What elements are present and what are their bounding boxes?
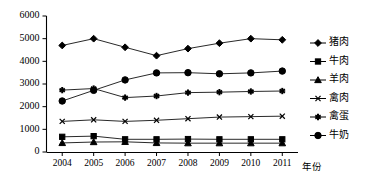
x-tick-label: 2011 xyxy=(273,158,292,168)
data-point-circle xyxy=(153,70,159,76)
data-point-circle xyxy=(216,71,222,77)
data-point-asterisk xyxy=(248,88,253,94)
data-point-diamond xyxy=(216,40,223,47)
data-point-circle xyxy=(59,98,65,104)
legend-item-label: 禽肉 xyxy=(329,91,349,103)
data-point-diamond xyxy=(185,45,192,52)
legend-item-4[interactable]: 禽蛋 xyxy=(310,109,349,121)
x-tick-label: 2004 xyxy=(53,158,72,168)
data-point-asterisk xyxy=(185,89,190,95)
y-tick-label: 1000 xyxy=(20,123,40,134)
x-axis-group: 20042005200620072008200920102011 年份 xyxy=(47,152,323,172)
legend-item-label: 牛肉 xyxy=(329,54,349,66)
y-tick-marks xyxy=(43,16,47,152)
data-point-diamond xyxy=(122,44,129,51)
legend-item-5[interactable]: 牛奶 xyxy=(310,128,349,140)
y-tick-labels: 0100020003000400050006000 xyxy=(20,9,40,156)
legend-item-1[interactable]: 牛肉 xyxy=(310,54,349,66)
legend-item-label: 牛奶 xyxy=(329,128,349,140)
y-tick-label: 0 xyxy=(35,145,40,156)
data-point-asterisk xyxy=(280,88,285,94)
x-tick-label: 2008 xyxy=(178,158,197,168)
y-axis-group: 0100020003000400050006000 xyxy=(20,9,47,156)
data-point-asterisk xyxy=(315,114,320,120)
data-point-circle xyxy=(315,132,321,138)
x-axis-title: 年份 xyxy=(302,161,322,172)
x-tick-labels: 20042005200620072008200920102011 xyxy=(53,158,292,168)
data-point-diamond xyxy=(247,35,254,42)
data-point-diamond xyxy=(59,42,66,49)
legend-item-label: 猪肉 xyxy=(329,35,349,47)
data-point-square xyxy=(315,59,320,64)
series-line xyxy=(62,39,282,56)
y-tick-label: 2000 xyxy=(20,100,40,111)
data-point-diamond xyxy=(315,40,322,47)
x-tick-label: 2007 xyxy=(147,158,166,168)
x-tick-label: 2005 xyxy=(84,158,103,168)
line-chart: 0100020003000400050006000 20042005200620… xyxy=(0,0,367,185)
data-point-circle xyxy=(90,87,96,93)
data-point-circle xyxy=(248,70,254,76)
y-tick-label: 6000 xyxy=(20,9,40,20)
data-point-diamond xyxy=(90,35,97,42)
data-point-circle xyxy=(279,68,285,74)
y-tick-label: 5000 xyxy=(20,32,40,43)
data-point-circle xyxy=(185,69,191,75)
data-point-diamond xyxy=(153,52,160,59)
data-point-asterisk xyxy=(122,94,127,100)
series-3 xyxy=(60,114,285,124)
data-series-layer xyxy=(59,35,286,146)
chart-canvas: 0100020003000400050006000 20042005200620… xyxy=(0,0,367,185)
x-tick-label: 2009 xyxy=(210,158,229,168)
y-tick-label: 4000 xyxy=(20,55,40,66)
legend-item-0[interactable]: 猪肉 xyxy=(310,35,349,47)
legend-item-label: 羊肉 xyxy=(329,72,349,84)
y-tick-label: 3000 xyxy=(20,77,40,88)
x-tick-label: 2006 xyxy=(116,158,135,168)
x-tick-label: 2010 xyxy=(241,158,260,168)
legend-item-3[interactable]: 禽肉 xyxy=(310,91,349,103)
data-point-diamond xyxy=(279,36,286,43)
legend-item-label: 禽蛋 xyxy=(329,109,349,121)
data-point-asterisk xyxy=(154,93,159,99)
data-point-circle xyxy=(122,77,128,83)
series-0 xyxy=(59,35,286,59)
legend-item-2[interactable]: 羊肉 xyxy=(310,72,349,84)
chart-legend: 猪肉牛肉羊肉禽肉禽蛋牛奶 xyxy=(310,35,349,140)
data-point-asterisk xyxy=(59,87,64,93)
data-point-asterisk xyxy=(217,89,222,95)
